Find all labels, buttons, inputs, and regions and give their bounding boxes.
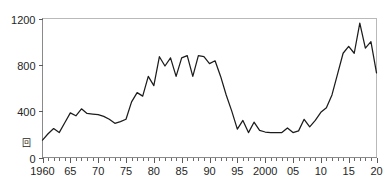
x-tick-label: 75: [120, 165, 132, 177]
x-tick-label: 90: [203, 165, 215, 177]
data-series-line: [43, 23, 377, 140]
y-tick-label: 400: [17, 106, 35, 118]
y-axis-ticks: [39, 20, 43, 159]
y-tick-label: 800: [17, 60, 35, 72]
x-tick-label: 80: [148, 165, 160, 177]
y-tick-label: 0: [29, 153, 35, 165]
x-tick-label: 10: [315, 165, 327, 177]
y-axis-unit-label: 回: [22, 138, 31, 148]
x-tick-label: 2000: [253, 165, 277, 177]
x-axis-tick-labels: 196065707580859095200005101520: [30, 165, 382, 177]
chart-container: 04008001200 1960657075808590952000051015…: [0, 0, 392, 190]
x-tick-label: 15: [343, 165, 355, 177]
x-tick-label: 1960: [30, 165, 54, 177]
x-tick-label: 05: [287, 165, 299, 177]
x-tick-label: 70: [92, 165, 104, 177]
x-tick-label: 20: [370, 165, 382, 177]
x-tick-label: 85: [176, 165, 188, 177]
y-tick-label: 1200: [11, 14, 35, 26]
x-axis-ticks: [44, 158, 378, 163]
x-tick-label: 65: [64, 165, 76, 177]
plot-frame: [42, 18, 377, 158]
line-chart: 04008001200 1960657075808590952000051015…: [0, 0, 392, 190]
x-tick-label: 95: [231, 165, 243, 177]
